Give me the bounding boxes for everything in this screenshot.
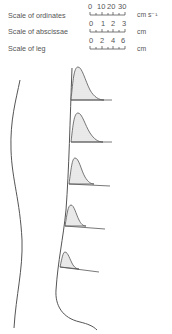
velocity-profile-1 [71,67,112,100]
velocity-profile-3 [69,158,110,186]
velocity-profile-5 [60,252,99,272]
leg-diagram [0,0,172,334]
scale-bars [90,12,125,49]
leg-rear-outline [56,68,97,330]
velocity-profile-4 [65,205,105,229]
velocity-profile-2 [71,113,112,142]
leg-front-outline [11,80,22,328]
